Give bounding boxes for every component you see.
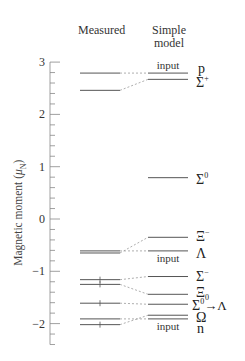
y-tick-label: 0: [39, 212, 45, 226]
level-n: input: [80, 319, 188, 332]
particle-label: Σ−: [196, 268, 209, 284]
level-xi0: [80, 281, 188, 294]
magnetic-moment-chart: 3210−1−2inputinputinputpΣ+Σ0Ξ−ΛΣ−Ξ0Σ0→ΛΩ…: [0, 0, 245, 361]
particle-label: Ξ−: [196, 228, 210, 244]
particle-label: n: [197, 321, 204, 336]
particle-label: Σ0: [196, 171, 208, 187]
particle-label: Σ+: [196, 74, 209, 90]
particle-label: Λ: [196, 246, 207, 261]
y-tick-label: −2: [32, 317, 45, 331]
y-tick-label: −1: [32, 264, 45, 278]
input-label: input: [157, 59, 180, 71]
input-label: input: [157, 252, 180, 264]
input-label: input: [157, 320, 180, 332]
level-sigma-: [80, 277, 188, 283]
level-sigma-: [80, 79, 188, 90]
y-tick-label: 3: [39, 55, 45, 69]
level-p: input: [80, 59, 188, 73]
y-tick-label: 2: [39, 107, 45, 121]
y-tick-label: 1: [39, 160, 45, 174]
level-sigma0-lambda: [80, 300, 188, 306]
y-axis: 3210−1−2: [32, 55, 60, 344]
